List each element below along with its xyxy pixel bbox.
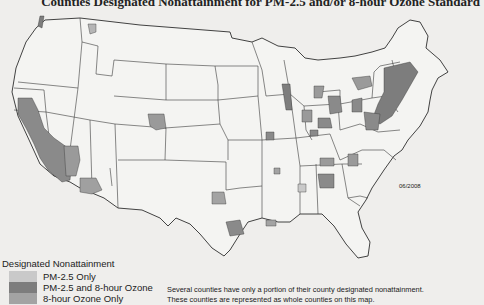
map-note: Several counties have only a portion of … — [167, 285, 424, 305]
legend-swatch — [9, 293, 37, 305]
area-atlanta — [318, 174, 334, 188]
area-birmingham — [298, 184, 306, 192]
legend-label: PM-2.5 Only — [43, 271, 96, 282]
area-dallas — [212, 192, 226, 204]
legend-title: Designated Nonattainment — [2, 258, 153, 269]
area-baton-rouge — [266, 220, 276, 226]
area-dc — [364, 112, 380, 130]
legend: Designated Nonattainment PM-2.5 Only PM-… — [2, 258, 153, 304]
area-memphis — [274, 168, 280, 174]
legend-label: PM-2.5 and 8-hour Ozone — [43, 282, 153, 293]
note-line-1: Several counties have only a portion of … — [167, 285, 424, 295]
area-pittsburgh — [352, 98, 362, 112]
area-nc — [348, 154, 358, 166]
area-detroit — [314, 86, 324, 98]
legend-item-pm25-only: PM-2.5 Only — [2, 271, 153, 282]
legend-item-ozone-only: 8-hour Ozone Only — [2, 293, 153, 304]
area-ohio — [328, 96, 342, 114]
area-indiana — [302, 110, 312, 122]
legend-label: 8-hour Ozone Only — [43, 293, 123, 304]
area-stlouis — [266, 132, 274, 140]
area-cincinnati — [318, 118, 332, 128]
area-tennessee — [320, 158, 334, 166]
note-line-2: These counties are represented as whole … — [167, 295, 424, 305]
date-label: 06/2008 — [399, 183, 421, 189]
legend-item-pm25-and-ozone: PM-2.5 and 8-hour Ozone — [2, 282, 153, 293]
area-louisville — [310, 130, 318, 136]
